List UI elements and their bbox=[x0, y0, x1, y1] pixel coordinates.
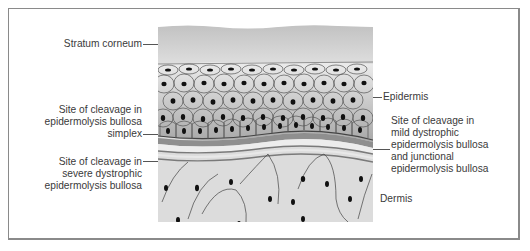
leader-severe-dystrophic bbox=[143, 161, 159, 162]
leader-epidermis bbox=[372, 97, 382, 98]
label-mild-junctional: Site of cleavage in mild dystrophic epid… bbox=[391, 115, 488, 175]
label-epidermis: Epidermis bbox=[383, 91, 428, 103]
skin-cross-section-illustration bbox=[158, 24, 373, 224]
leader-simplex bbox=[143, 134, 159, 135]
leader-mild-junctional bbox=[373, 149, 390, 150]
label-dermis: Dermis bbox=[380, 193, 412, 205]
label-severe-dystrophic: Site of cleavage in severe dystrophic ep… bbox=[45, 156, 142, 192]
label-simplex: Site of cleavage in epidermolysis bullos… bbox=[45, 104, 142, 140]
leader-stratum-corneum bbox=[143, 44, 159, 45]
label-stratum-corneum: Stratum corneum bbox=[64, 38, 142, 50]
